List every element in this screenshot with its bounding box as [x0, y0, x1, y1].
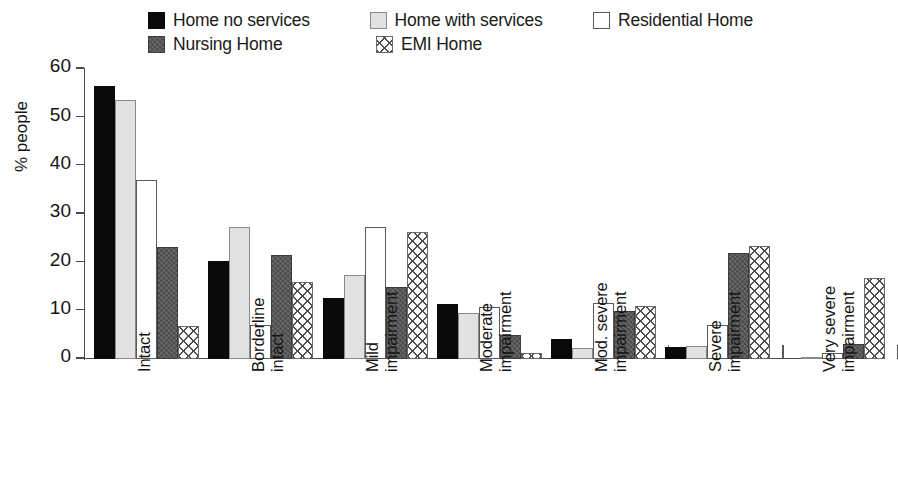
x-axis-label-severe-impairment: Severeimpairment [706, 291, 744, 372]
legend-label-home-with-services: Home with services [395, 11, 543, 30]
legend-label-home-no-services: Home no services [173, 11, 310, 30]
bar-home-with-services-moderate-impairment[interactable] [458, 313, 479, 359]
x-axis-label-line-2: impairment [496, 291, 515, 372]
x-axis-label-line-1: Severe [706, 320, 724, 372]
legend-swatch-emi-home [376, 36, 393, 53]
y-tick-40: 40 [76, 164, 84, 165]
bar-home-no-services-severe-impairment[interactable] [665, 347, 686, 359]
x-axis-label-mild-impairment: Mildimpairment [363, 291, 401, 372]
x-axis-label-line-1: Mild [363, 342, 381, 372]
bar-home-with-services-borderline-intact[interactable] [229, 227, 250, 359]
legend-row-2: Nursing Home EMI Home [148, 32, 768, 56]
bar-emi-home-intact[interactable] [178, 326, 199, 358]
y-axis-line [84, 68, 85, 360]
y-tick-label-20: 20 [50, 249, 71, 271]
bar-nursing-home-intact[interactable] [157, 247, 178, 358]
x-axis-label-very-severe-impairment: Very severeimpairment [820, 286, 858, 372]
x-axis-label-mod-severe-impairment: Mod. severeimpairment [592, 282, 630, 372]
legend-swatch-residential-home [593, 12, 610, 29]
y-tick-50: 50 [76, 116, 84, 117]
bar-emi-home-mild-impairment[interactable] [407, 232, 428, 358]
legend-label-emi-home: EMI Home [401, 35, 482, 54]
bar-emi-home-moderate-impairment[interactable] [521, 353, 542, 359]
legend-label-nursing-home: Nursing Home [173, 35, 282, 54]
bar-home-with-services-mod-severe-impairment[interactable] [572, 348, 593, 359]
x-axis-label-intact: Intact [135, 332, 154, 372]
y-tick-label-40: 40 [50, 152, 71, 174]
x-axis-label-line-2: impairment [382, 291, 401, 372]
bar-home-no-services-mild-impairment[interactable] [323, 298, 344, 358]
y-tick-10: 10 [76, 309, 84, 310]
legend-swatch-home-with-services [370, 12, 387, 29]
legend-swatch-home-no-services [148, 12, 165, 29]
x-axis-label-line-1: Very severe [820, 286, 838, 372]
y-tick-label-0: 0 [60, 345, 71, 367]
y-tick-0: 0 [76, 357, 84, 358]
y-tick-label-60: 60 [50, 55, 71, 77]
y-tick-label-10: 10 [50, 297, 71, 319]
x-axis-label-line-2: intact [268, 298, 287, 372]
bar-emi-home-borderline-intact[interactable] [292, 282, 313, 358]
y-tick-20: 20 [76, 261, 84, 262]
x-axis-label-line-2: impairment [611, 282, 630, 372]
legend-item-emi-home: EMI Home [376, 32, 606, 56]
x-axis-label-line-1: Borderline [249, 298, 267, 372]
x-axis-label-line-1: Mod. severe [592, 282, 610, 372]
chart-legend: Home no services Home with services Resi… [148, 8, 768, 56]
bar-emi-home-mod-severe-impairment[interactable] [635, 306, 656, 359]
bar-group-intact [94, 69, 199, 359]
legend-item-nursing-home: Nursing Home [148, 32, 376, 56]
x-axis-label-line-1: Intact [135, 332, 153, 372]
bar-home-with-services-very-severe-impairment[interactable] [801, 357, 822, 359]
bar-home-no-services-borderline-intact[interactable] [208, 261, 229, 359]
x-axis-label-line-1: Moderate [477, 303, 495, 372]
legend-item-home-with-services: Home with services [370, 8, 594, 32]
y-tick-label-30: 30 [50, 200, 71, 222]
x-axis-label-line-2: impairment [839, 286, 858, 372]
legend-item-home-no-services: Home no services [148, 8, 370, 32]
x-axis-label-line-2: impairment [725, 291, 744, 372]
y-tick-label-50: 50 [50, 104, 71, 126]
y-tick-30: 30 [76, 212, 84, 213]
legend-row-1: Home no services Home with services Resi… [148, 8, 768, 32]
bar-home-no-services-intact[interactable] [94, 86, 115, 359]
legend-label-residential-home: Residential Home [618, 11, 753, 30]
bar-home-with-services-mild-impairment[interactable] [344, 275, 365, 359]
bar-home-with-services-intact[interactable] [115, 100, 136, 359]
bar-home-no-services-mod-severe-impairment[interactable] [551, 339, 572, 359]
bar-home-with-services-severe-impairment[interactable] [686, 346, 707, 359]
x-axis-label-borderline-intact: Borderlineintact [249, 298, 287, 372]
legend-swatch-nursing-home [148, 36, 165, 53]
x-axis-label-moderate-impairment: Moderateimpairment [477, 291, 515, 372]
bar-emi-home-severe-impairment[interactable] [749, 246, 770, 359]
legend-item-residential-home: Residential Home [593, 8, 768, 32]
bar-home-no-services-moderate-impairment[interactable] [437, 304, 458, 358]
y-axis-title: % people [12, 101, 32, 172]
y-tick-60: 60 [76, 67, 84, 68]
bar-emi-home-very-severe-impairment[interactable] [864, 278, 885, 358]
